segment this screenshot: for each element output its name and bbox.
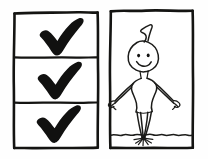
eye-left xyxy=(137,54,140,58)
checklist-panel xyxy=(14,12,98,148)
sketch-canvas: Hand-drawn checklist beside a standing f… xyxy=(0,0,208,159)
eye-right xyxy=(147,54,150,58)
figure-panel xyxy=(109,10,194,148)
